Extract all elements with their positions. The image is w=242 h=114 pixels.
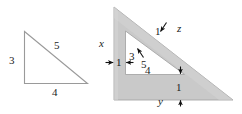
- frame-thickness-left-label: 1: [116, 57, 122, 68]
- frame-outer-hypotenuse-label: z: [177, 23, 181, 34]
- left-triangle-vertical-leg-label: 3: [9, 55, 15, 66]
- left-triangle-hypotenuse-label: 5: [54, 40, 60, 51]
- frame-inner-vertical-leg-label: 3: [129, 51, 135, 62]
- thickness-hypotenuse-arrow: [161, 23, 167, 32]
- frame-outer-bottom-label: y: [158, 96, 163, 107]
- frame-thickness-hypotenuse-label: 1: [155, 26, 161, 37]
- inner-hypotenuse-pointer: [138, 49, 144, 58]
- frame-inner-bottom-leg-label: 4: [145, 65, 151, 76]
- frame-thickness-bottom-label: 1: [176, 82, 182, 93]
- frame-outer-left-side-label: x: [99, 38, 104, 49]
- left-triangle-horizontal-leg-label: 4: [52, 87, 58, 98]
- geometry-figure: 3 5 4 x z y 3 5 4 1 1 1: [0, 0, 242, 114]
